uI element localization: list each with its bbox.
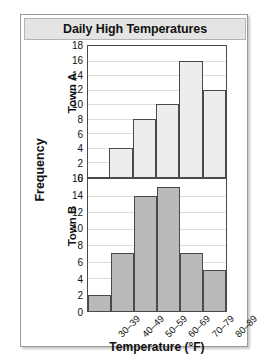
y-tick-label: 16 xyxy=(72,54,83,65)
chart-title: Daily High Temperatures xyxy=(63,22,207,36)
x-axis-title: Temperature (°F) xyxy=(67,340,247,354)
x-tick-label: 30–39 xyxy=(116,313,142,339)
panel-town-b: Town B 1614121086420 xyxy=(41,178,227,312)
plot-area-town-a xyxy=(87,45,227,178)
bar xyxy=(156,104,179,177)
y-tick-label: 6 xyxy=(77,256,83,267)
bar xyxy=(111,253,134,311)
x-tick-label: 50–59 xyxy=(163,313,189,339)
bar xyxy=(203,270,226,311)
chart-card: Daily High Temperatures Frequency Town A… xyxy=(20,14,248,347)
bar xyxy=(134,196,157,312)
x-tick-label: 60–69 xyxy=(186,313,212,339)
y-axis-ticks-town-b: 1614121086420 xyxy=(63,178,85,312)
chart-title-bar: Daily High Temperatures xyxy=(24,18,246,40)
y-tick-label: 4 xyxy=(77,143,83,154)
y-tick-label: 4 xyxy=(77,273,83,284)
x-tick-label: 70–79 xyxy=(209,313,235,339)
y-tick-label: 6 xyxy=(77,128,83,139)
bar xyxy=(180,253,203,311)
y-axis-ticks-town-a: 181614121086420 xyxy=(63,45,85,178)
y-tick-label: 18 xyxy=(72,40,83,51)
x-tick-label: 40–49 xyxy=(139,313,165,339)
y-tick-label: 10 xyxy=(72,223,83,234)
bar-series-town-a xyxy=(88,46,226,177)
y-tick-label: 2 xyxy=(77,158,83,169)
y-tick-label: 12 xyxy=(72,84,83,95)
bar xyxy=(88,295,111,312)
bar xyxy=(179,61,202,177)
plot-area-town-b xyxy=(87,178,227,312)
bar-series-town-b xyxy=(88,179,226,311)
panel-town-a: Town A 181614121086420 xyxy=(41,45,227,178)
y-tick-label: 8 xyxy=(77,240,83,251)
y-tick-label: 16 xyxy=(72,173,83,184)
bar xyxy=(157,187,180,311)
y-tick-label: 0 xyxy=(77,307,83,318)
bar xyxy=(133,119,156,177)
x-axis-tick-labels: 30–3940–4950–5960–6970–7980–89 xyxy=(87,313,227,343)
y-tick-label: 8 xyxy=(77,113,83,124)
y-tick-label: 14 xyxy=(72,189,83,200)
bar xyxy=(109,148,132,177)
bar xyxy=(203,90,226,177)
y-tick-label: 10 xyxy=(72,99,83,110)
y-tick-label: 2 xyxy=(77,290,83,301)
x-tick-label: 80–89 xyxy=(233,313,259,339)
y-tick-label: 12 xyxy=(72,206,83,217)
y-tick-label: 14 xyxy=(72,69,83,80)
